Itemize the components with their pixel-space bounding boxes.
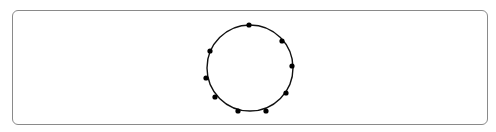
circle-diagram [0,0,496,132]
point-7 [212,94,217,99]
point-6 [235,108,240,113]
point-2 [279,38,284,43]
circle-outline [207,25,293,111]
point-4 [283,90,288,95]
point-9 [207,48,212,53]
point-1 [246,22,251,27]
point-3 [289,63,294,68]
point-8 [203,75,208,80]
point-5 [263,108,268,113]
